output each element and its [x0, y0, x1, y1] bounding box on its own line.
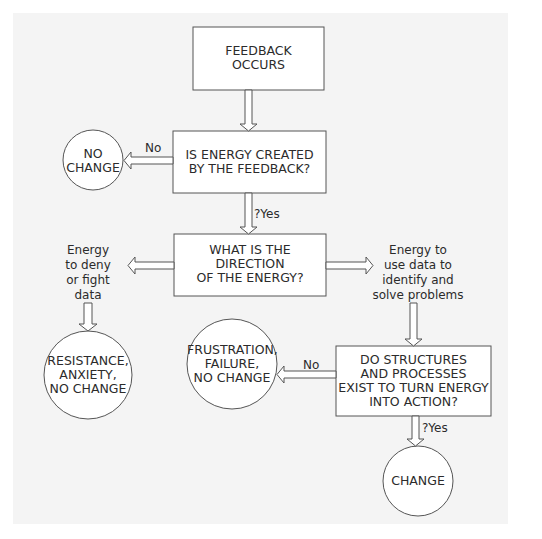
edge-text-line: data [55, 288, 121, 303]
node-text-line: OF THE ENERGY? [174, 271, 326, 285]
node-text-line: DO STRUCTURES [336, 353, 491, 367]
node-text-line: WHAT IS THE [174, 243, 326, 257]
node-text-line: INTO ACTION? [336, 395, 491, 409]
node-text-line: EXIST TO TURN ENERGY [336, 381, 491, 395]
node-no-change: NO CHANGE [63, 147, 123, 175]
edge-text-line: solve problems [368, 288, 468, 303]
node-text-line: FAILURE, [187, 357, 277, 371]
node-energy-created: IS ENERGY CREATED BY THE FEEDBACK? [173, 148, 326, 176]
node-feedback-occurs: FEEDBACK OCCURS [193, 44, 324, 72]
node-text-line: AND PROCESSES [336, 367, 491, 381]
node-text-line: NO CHANGE [187, 371, 277, 385]
edge-text-line: Energy to [368, 243, 468, 258]
edge-label-no-2: No [303, 358, 319, 372]
node-text-line: NO [63, 147, 123, 161]
node-text-line: RESISTANCE, [44, 354, 132, 368]
node-change: CHANGE [383, 474, 453, 488]
node-text-line: ANXIETY, [44, 368, 132, 382]
edge-text-line: to deny [55, 258, 121, 273]
node-frustration: FRUSTRATION, FAILURE, NO CHANGE [187, 343, 277, 385]
node-resistance: RESISTANCE, ANXIETY, NO CHANGE [44, 354, 132, 396]
node-text-line: NO CHANGE [44, 382, 132, 396]
node-text-line: CHANGE [383, 474, 453, 488]
edge-label-use: Energy to use data to identify and solve… [368, 243, 468, 303]
node-text-line: OCCURS [193, 58, 324, 72]
edge-text-line: Energy [55, 243, 121, 258]
edge-text-line: or fight [55, 273, 121, 288]
node-text-line: CHANGE [63, 161, 123, 175]
node-text-line: IS ENERGY CREATED [173, 148, 326, 162]
arrow-right-use [326, 257, 373, 274]
node-structures: DO STRUCTURES AND PROCESSES EXIST TO TUR… [336, 353, 491, 409]
edge-text-line: identify and [368, 273, 468, 288]
node-direction: WHAT IS THE DIRECTION OF THE ENERGY? [174, 243, 326, 285]
edge-label-deny: Energy to deny or fight data [55, 243, 121, 303]
node-text-line: DIRECTION [174, 257, 326, 271]
edge-label-yes-1: ?Yes [254, 207, 280, 221]
arrow-down-use [405, 303, 422, 346]
node-text-line: FRUSTRATION, [187, 343, 277, 357]
edge-label-no-1: No [145, 141, 161, 155]
arrow-left-deny [128, 257, 174, 274]
edge-label-yes-2: ?Yes [422, 421, 448, 435]
edge-text-line: use data to [368, 258, 468, 273]
arrow-down-1 [240, 90, 257, 131]
node-text-line: FEEDBACK [193, 44, 324, 58]
node-text-line: BY THE FEEDBACK? [173, 162, 326, 176]
arrow-down-deny [79, 303, 97, 331]
